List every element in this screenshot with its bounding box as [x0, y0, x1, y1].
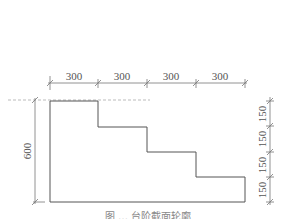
right-dim-label-3: 150	[256, 156, 268, 173]
left-dimension-line	[32, 97, 45, 205]
right-dim-label-2: 150	[256, 130, 268, 147]
stair-section-diagram: 300 300 300 300 600 150 150 150 150 图 … …	[0, 0, 281, 219]
right-dim-label-4: 150	[256, 181, 268, 198]
figure-caption: 图 … 台阶截面轮廓	[105, 210, 191, 219]
top-dim-label-1: 300	[66, 70, 83, 82]
top-dim-label-3: 300	[163, 70, 180, 82]
top-dim-label-4: 300	[212, 70, 229, 82]
right-dim-label-1: 150	[256, 105, 268, 122]
left-dim-label: 600	[21, 142, 33, 159]
stair-outline	[50, 101, 245, 202]
top-dim-label-2: 300	[114, 70, 131, 82]
